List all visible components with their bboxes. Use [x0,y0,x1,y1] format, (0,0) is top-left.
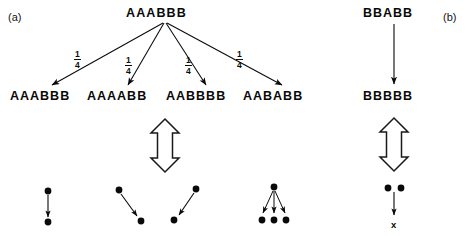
panel-b-root-sequence: BBABB [363,7,413,20]
vector-graphics-layer [0,0,474,236]
panel-b-label: (b) [443,11,456,23]
fraction-numerator: 1 [74,50,81,59]
branch-arrow-4 [167,23,282,85]
graph-one-to-one-vertical [45,188,52,226]
branch-probability-3: 1 4 [185,56,192,75]
branch-arrow-3 [166,23,206,85]
graph-one-to-one-diagonal-right [116,187,145,225]
graph-two-dots-to-x [385,185,405,215]
graph-one-to-three-fan [259,184,290,224]
fraction-denominator: 4 [185,67,192,76]
fraction-denominator: 4 [236,61,243,70]
figure-canvas: (a) AAABBB 1 4 1 4 1 4 1 4 AAABBB AAAABB… [0,0,474,236]
panel-a-label: (a) [8,11,21,23]
panel-b-terminal-label: x [391,220,396,230]
branch-probability-4: 1 4 [236,50,243,69]
panel-a-child-sequence-4: AABABB [243,90,303,103]
fraction-denominator: 4 [74,61,81,70]
panel-a-branch-arrows [52,23,282,85]
panel-a-child-sequence-2: AAAABB [87,90,147,103]
panel-a-equivalence-arrow [151,119,179,172]
fraction-numerator: 1 [185,56,192,65]
branch-probability-2: 1 4 [125,56,132,75]
panel-b-equivalence-arrow [380,118,408,171]
fraction-numerator: 1 [236,50,243,59]
graph-one-to-one-diagonal-left [171,186,200,224]
panel-a-child-sequence-3: AABBBB [166,90,226,103]
fraction-numerator: 1 [125,56,132,65]
panel-a-child-sequence-1: AAABBB [10,90,70,103]
panel-a-root-sequence: AAABBB [126,7,187,20]
fraction-denominator: 4 [125,67,132,76]
panel-b-child-sequence: BBBBB [363,90,413,103]
branch-probability-1: 1 4 [74,50,81,69]
